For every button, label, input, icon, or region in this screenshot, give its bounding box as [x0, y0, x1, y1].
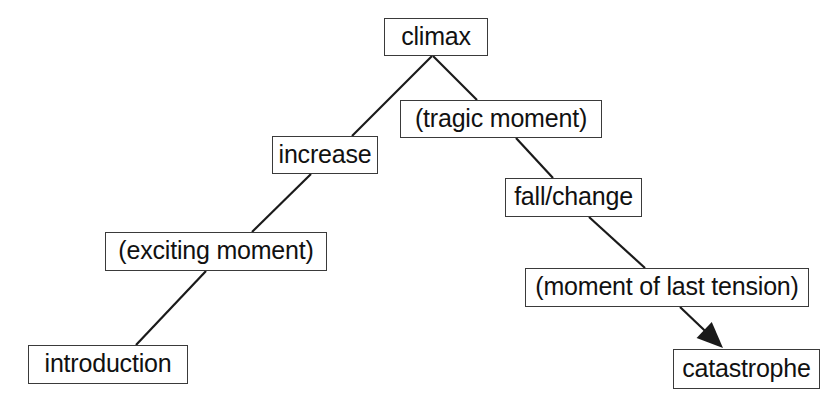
node-fall-change[interactable]: fall/change	[505, 178, 642, 217]
node-moment-of-last-tension[interactable]: (moment of last tension)	[525, 268, 809, 307]
edge-tension-catastrophe	[680, 307, 708, 333]
edge-climax-tragic	[433, 56, 477, 100]
edge-tragic-fall	[516, 138, 553, 178]
node-label-fall-change: fall/change	[508, 184, 639, 209]
node-label-moment-of-last-tension: (moment of last tension)	[529, 274, 804, 299]
node-label-exciting-moment: (exciting moment)	[112, 238, 319, 263]
node-increase[interactable]: increase	[272, 136, 378, 174]
edge-exciting-introduction	[136, 271, 206, 345]
node-tragic-moment[interactable]: (tragic moment)	[400, 100, 602, 138]
edge-fall-tension	[589, 217, 645, 268]
node-catastrophe[interactable]: catastrophe	[673, 349, 820, 389]
node-label-catastrophe: catastrophe	[676, 356, 816, 381]
node-exciting-moment[interactable]: (exciting moment)	[105, 232, 327, 271]
edge-increase-exciting	[252, 174, 311, 232]
node-climax[interactable]: climax	[384, 18, 488, 56]
node-label-introduction: introduction	[39, 351, 178, 376]
node-label-increase: increase	[273, 142, 378, 167]
dramatic-structure-diagram: climax (tragic moment) increase fall/cha…	[0, 0, 839, 413]
node-label-tragic-moment: (tragic moment)	[409, 106, 593, 131]
node-introduction[interactable]: introduction	[28, 345, 188, 384]
node-label-climax: climax	[395, 24, 477, 49]
